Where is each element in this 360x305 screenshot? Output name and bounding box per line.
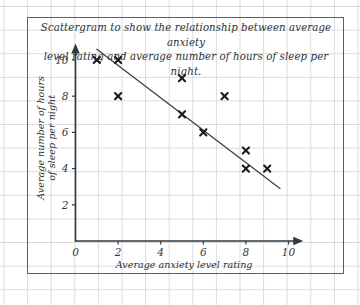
y-axis-arrow-icon (71, 44, 79, 54)
data-point-marker (264, 166, 270, 172)
axis-tick-marks (72, 60, 289, 245)
x-axis-arrow-icon (293, 237, 303, 245)
y-tick-label: 8 (62, 90, 69, 102)
y-axis-tick-labels: 246810 (55, 54, 69, 211)
line-of-best-fit (97, 49, 280, 188)
x-axis-tick-labels: 0246810 (72, 246, 295, 258)
data-point-marker (115, 93, 121, 99)
data-point-marker (94, 57, 100, 63)
x-tick-label: 2 (114, 246, 122, 258)
data-point-marker (243, 147, 249, 153)
scatter-plot: 246810 0246810 Average anxiety level rat… (0, 0, 360, 305)
y-axis-title-line-2: of sleep per night (46, 95, 57, 181)
data-point-marker (115, 57, 121, 63)
data-point-marker (243, 166, 249, 172)
x-tick-label: 6 (200, 246, 207, 258)
y-axis-title-line-1: Average number of hours (35, 76, 46, 201)
x-axis-title: Average anxiety level rating (115, 259, 253, 270)
x-tick-label: 8 (243, 246, 250, 258)
data-point-marker (222, 93, 228, 99)
data-point-marker (179, 75, 185, 81)
scattergram-page: Scattergram to show the relationship bet… (0, 0, 360, 305)
y-tick-label: 10 (55, 54, 69, 66)
x-tick-label: 0 (72, 246, 79, 258)
data-point-marker (179, 111, 185, 117)
y-tick-label: 4 (61, 162, 69, 174)
x-tick-label: 4 (156, 246, 164, 258)
y-tick-label: 6 (62, 126, 69, 138)
y-tick-label: 2 (61, 199, 69, 211)
axes (71, 44, 303, 246)
data-point-markers (94, 57, 271, 172)
x-tick-label: 10 (282, 246, 296, 258)
